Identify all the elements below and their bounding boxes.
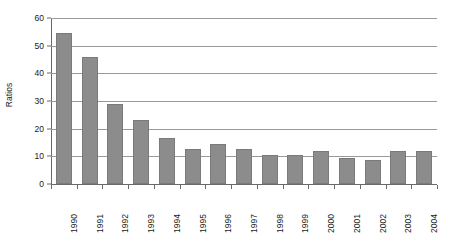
y-tick-mark-10: [47, 156, 51, 157]
bar-chart-figure: Ratios 0102030405060 1990199119921993199…: [0, 0, 451, 233]
x-tick-label-1993: 1993: [145, 190, 157, 233]
y-tick-label-10: 10: [35, 152, 44, 161]
x-tick-label-1992: 1992: [119, 190, 131, 233]
bar-2001: [339, 158, 355, 184]
plot-area: [51, 18, 437, 184]
x-tick-mark-1995: [205, 185, 206, 189]
y-tick-mark-30: [47, 101, 51, 102]
y-tick-mark-60: [47, 18, 51, 19]
x-tick-mark-2000: [334, 185, 335, 189]
x-tick-mark-1999: [308, 185, 309, 189]
y-tick-label-0: 0: [39, 180, 44, 189]
x-tick-mark-2003: [411, 185, 412, 189]
x-tick-label-1994: 1994: [171, 190, 183, 233]
x-tick-mark-1996: [231, 185, 232, 189]
y-axis-title-label: Ratios: [4, 83, 14, 108]
x-tick-mark-1993: [154, 185, 155, 189]
bar-2003: [390, 151, 406, 184]
x-tick-mark-1994: [180, 185, 181, 189]
y-tick-mark-40: [47, 73, 51, 74]
bar-1993: [133, 120, 149, 184]
y-tick-label-40: 40: [35, 69, 44, 78]
x-tick-label-2004: 2004: [428, 190, 440, 233]
bar-2000: [313, 151, 329, 184]
x-tick-label-2003: 2003: [402, 190, 414, 233]
x-tick-label-2000: 2000: [325, 190, 337, 233]
x-axis-tick-labels: 1990199119921993199419951996199719981999…: [51, 190, 437, 233]
y-tick-mark-50: [47, 45, 51, 46]
x-tick-label-1991: 1991: [94, 190, 106, 233]
x-tick-label-1995: 1995: [197, 190, 209, 233]
y-axis-tick-labels: 0102030405060: [18, 0, 48, 190]
bar-1997: [236, 149, 252, 184]
bar-1996: [210, 144, 226, 184]
x-tick-mark-1998: [283, 185, 284, 189]
x-tick-label-2001: 2001: [351, 190, 363, 233]
x-tick-mark-2001: [360, 185, 361, 189]
x-tick-mark-1997: [257, 185, 258, 189]
bar-1999: [287, 155, 303, 184]
bar-1991: [82, 57, 98, 184]
x-tick-mark-origin: [51, 185, 52, 189]
x-tick-label-1997: 1997: [248, 190, 260, 233]
x-tick-label-1996: 1996: [222, 190, 234, 233]
y-tick-label-50: 50: [35, 41, 44, 50]
bar-2004: [416, 151, 432, 184]
x-tick-label-1990: 1990: [68, 190, 80, 233]
y-tick-mark-20: [47, 128, 51, 129]
x-tick-mark-2002: [386, 185, 387, 189]
x-tick-label-1998: 1998: [274, 190, 286, 233]
bar-1994: [159, 138, 175, 184]
y-tick-label-20: 20: [35, 124, 44, 133]
y-axis-title: Ratios: [0, 0, 18, 190]
x-tick-mark-1990: [77, 185, 78, 189]
y-tick-label-30: 30: [35, 97, 44, 106]
x-tick-mark-2004: [437, 185, 438, 189]
x-tick-label-2002: 2002: [377, 190, 389, 233]
x-tick-label-1999: 1999: [299, 190, 311, 233]
y-tick-mark-0: [47, 184, 51, 185]
bar-1995: [185, 149, 201, 184]
x-tick-mark-1992: [128, 185, 129, 189]
bar-1992: [107, 104, 123, 184]
bar-1990: [56, 33, 72, 184]
bars-layer: [51, 18, 437, 184]
y-tick-label-60: 60: [35, 14, 44, 23]
bar-2002: [365, 160, 381, 184]
bar-1998: [262, 155, 278, 184]
x-tick-mark-1991: [102, 185, 103, 189]
